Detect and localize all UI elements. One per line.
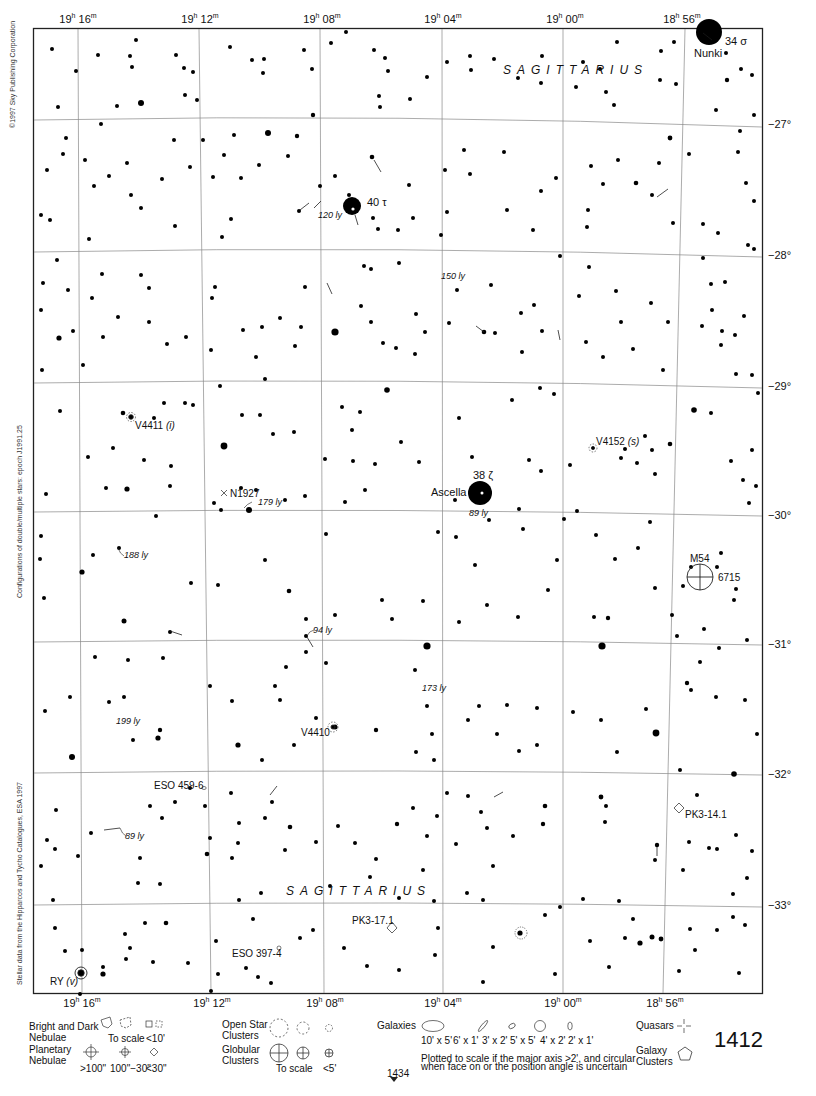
- label-distance: 89 ly: [469, 508, 488, 518]
- ra-grid: [78, 29, 685, 993]
- label-ngc-6715: 6715: [718, 572, 740, 583]
- label-pk3-14-1: PK3-14.1: [685, 809, 727, 820]
- legend-globular-clusters: Globular Clusters: [222, 1044, 274, 1066]
- galaxy-note: when face on or the position angle is un…: [421, 1061, 627, 1072]
- label-eso-397-4: ESO 397-4: [232, 948, 281, 959]
- label-eso-459-6: ESO 459-6: [154, 780, 203, 791]
- galaxy-size: 3' x 2': [482, 1035, 508, 1046]
- motion-lines: [104, 160, 668, 856]
- legend-quasars: Quasars: [636, 1020, 674, 1031]
- galaxy-symbols: [420, 1016, 590, 1036]
- label-distance: 150 ly: [441, 271, 465, 281]
- legend-pn-size: <30": [146, 1063, 167, 1074]
- label-m54: M54: [690, 553, 709, 564]
- legend-gc-lt5: <5': [323, 1063, 336, 1074]
- label-nunki: Nunki: [694, 47, 722, 59]
- star-40-tau: [343, 197, 361, 215]
- double-star-marker: [221, 490, 227, 496]
- label-v4152: V4152 (s): [596, 436, 639, 447]
- deep-sky-symbols: [75, 33, 713, 979]
- label-distance: 94 ly: [313, 625, 332, 635]
- label-distance: 188 ly: [124, 550, 148, 560]
- star-field: [38, 30, 760, 996]
- label-distance: 179 ly: [258, 497, 282, 507]
- label-distance: 173 ly: [422, 683, 446, 693]
- label-pk3-17-1: PK3-17.1: [352, 915, 394, 926]
- legend-galaxy-clusters: Galaxy Clusters: [636, 1045, 680, 1067]
- open-cluster-symbols: [268, 1017, 338, 1041]
- label-n1927: N1927: [230, 488, 259, 499]
- label-ascella: Ascella: [431, 486, 466, 498]
- galaxy-size: 5' x 5': [510, 1035, 536, 1046]
- constellation-name-bottom: SAGITTARIUS: [286, 884, 431, 898]
- label-v4411: V4411 (i): [135, 420, 175, 431]
- star-nunki: [696, 19, 722, 45]
- label-38-zeta: 38 ζ: [473, 469, 493, 481]
- label-distance: 89 ly: [125, 831, 144, 841]
- legend-galaxies: Galaxies: [377, 1020, 416, 1031]
- label-distance: 199 ly: [116, 716, 140, 726]
- dec-grid: [34, 118, 762, 907]
- constellation-name-top: SAGITTARIUS: [503, 63, 648, 77]
- galaxy-size: 10' x 5': [421, 1035, 452, 1046]
- label-40-tau: 40 τ: [367, 196, 387, 208]
- quasar-icon: [676, 1018, 692, 1034]
- page-number: 1412: [714, 1027, 763, 1053]
- planetary-nebula-symbols: [80, 1040, 162, 1064]
- legend-pn-size: 100"−30": [110, 1063, 151, 1074]
- galaxy-size: 2' x 1': [568, 1035, 594, 1046]
- galaxy-size: 4' x 2': [540, 1035, 566, 1046]
- label-distance: 120 ly: [318, 210, 342, 220]
- label-34-sigma: 34 σ: [725, 35, 747, 47]
- arrow-down-icon[interactable]: [390, 1077, 398, 1082]
- pentagon-icon: [676, 1045, 694, 1063]
- planetary-nebula-pk3-14: [674, 803, 684, 813]
- star-chart: [0, 0, 816, 1096]
- legend-open-clusters: Open Star Clusters: [222, 1019, 274, 1041]
- legend-pn-size: >100": [80, 1063, 106, 1074]
- label-ry: RY (v): [50, 976, 78, 987]
- galaxy-size: 6' x 1': [453, 1035, 479, 1046]
- label-v4410: V4410: [301, 727, 330, 738]
- legend-gc-to-scale: To scale: [276, 1063, 313, 1074]
